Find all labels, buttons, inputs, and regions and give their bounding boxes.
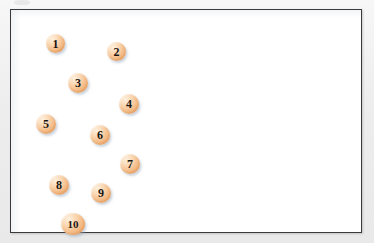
scatter-node-label: 8 [56, 179, 62, 191]
scatter-node-10: 10 [61, 213, 85, 235]
scatter-node-label: 5 [43, 118, 49, 130]
scatter-node-4: 4 [119, 94, 139, 114]
scatter-node-7: 7 [120, 154, 140, 174]
page-background: 12345678910 [0, 0, 374, 243]
scatter-node-5: 5 [36, 114, 56, 134]
scatter-node-8: 8 [49, 175, 69, 195]
scatter-node-6: 6 [90, 125, 110, 145]
scatter-node-label: 3 [75, 77, 81, 89]
scatter-node-label: 7 [127, 158, 133, 170]
scatter-node-1: 1 [46, 34, 65, 53]
scatter-node-label: 9 [98, 187, 104, 199]
figure-border: 12345678910 [10, 9, 362, 233]
scatter-node-9: 9 [91, 183, 111, 203]
scatter-node-2: 2 [107, 42, 126, 61]
scatter-node-label: 1 [53, 37, 59, 49]
scatter-plot-area: 12345678910 [11, 10, 361, 232]
scatter-node-label: 6 [97, 129, 103, 141]
scatter-node-label: 10 [68, 218, 79, 229]
scan-artifact-mark [14, 0, 30, 5]
scatter-node-label: 2 [114, 45, 120, 57]
scatter-node-label: 4 [126, 98, 132, 110]
scatter-node-3: 3 [68, 73, 88, 93]
